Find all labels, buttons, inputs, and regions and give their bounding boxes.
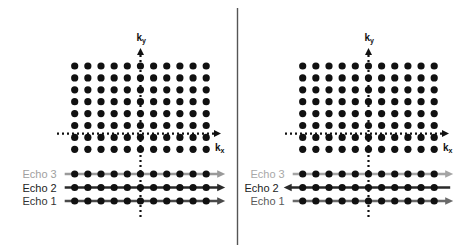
arrow-right-icon	[445, 197, 453, 205]
kx-arrow-icon	[442, 130, 449, 137]
echo-label: Echo 2	[22, 182, 56, 194]
echo-label: Echo 2	[244, 182, 278, 194]
ky-arrow-icon	[137, 48, 144, 55]
arrow-right-icon	[445, 170, 453, 178]
kspace-panel-right: Echo 3Echo 2Echo 1kykx	[244, 32, 453, 219]
arrow-right-icon	[217, 184, 225, 192]
echo-label: Echo 3	[250, 168, 284, 180]
arrow-right-icon	[217, 197, 225, 205]
kx-arrow-icon	[214, 130, 221, 137]
kx-label: kx	[215, 142, 225, 154]
kspace-panel-left: Echo 3Echo 2Echo 1kykx	[22, 32, 225, 219]
ky-arrow-icon	[365, 48, 372, 55]
k-space-diagram: Echo 3Echo 2Echo 1kykx Echo 3Echo 2Echo …	[0, 0, 471, 251]
ky-label: ky	[365, 32, 375, 45]
arrow-left-icon	[284, 184, 292, 192]
kx-label: kx	[443, 142, 453, 154]
echo-label: Echo 1	[250, 195, 284, 207]
echo-label: Echo 1	[22, 195, 56, 207]
ky-label: ky	[137, 32, 147, 45]
arrow-right-icon	[217, 170, 225, 178]
echo-label: Echo 3	[22, 168, 56, 180]
